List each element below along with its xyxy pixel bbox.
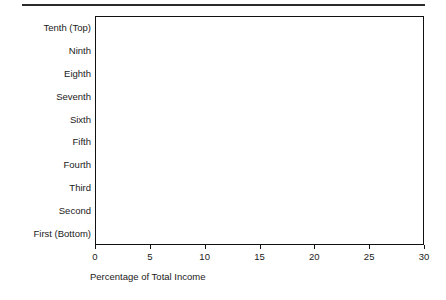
- y-axis-label: Second: [0, 205, 91, 216]
- x-tick-mark: [260, 245, 261, 249]
- y-axis-label: Ninth: [0, 45, 91, 56]
- x-tick-mark: [150, 245, 151, 249]
- y-axis-label: First (Bottom): [0, 228, 91, 239]
- y-axis-label: Fourth: [0, 159, 91, 170]
- y-axis-label: Fifth: [0, 136, 91, 147]
- x-tick-mark: [424, 245, 425, 249]
- y-axis-label: Tenth (Top): [0, 22, 91, 33]
- x-axis-ticks: 051015202530: [95, 245, 424, 265]
- x-tick-label: 30: [419, 251, 430, 262]
- plot-area: [95, 16, 424, 245]
- x-axis-title: Percentage of Total Income: [90, 271, 205, 283]
- x-tick-label: 15: [254, 251, 265, 262]
- x-tick-label: 5: [147, 251, 152, 262]
- x-tick-label: 25: [364, 251, 375, 262]
- y-axis-label: Third: [0, 182, 91, 193]
- y-axis-label: Seventh: [0, 91, 91, 102]
- x-tick-label: 10: [199, 251, 210, 262]
- y-axis-label: Sixth: [0, 114, 91, 125]
- x-tick-label: 20: [309, 251, 320, 262]
- x-tick-mark: [314, 245, 315, 249]
- chart-figure: Tenth (Top)NinthEighthSeventhSixthFifthF…: [0, 0, 446, 300]
- x-tick-mark: [205, 245, 206, 249]
- plot-frame-border: [95, 16, 424, 245]
- x-tick-mark: [369, 245, 370, 249]
- y-axis-category-labels: Tenth (Top)NinthEighthSeventhSixthFifthF…: [0, 16, 91, 245]
- y-axis-label: Eighth: [0, 68, 91, 79]
- x-tick-label: 0: [92, 251, 97, 262]
- top-rule-divider: [22, 4, 425, 6]
- x-tick-mark: [95, 245, 96, 249]
